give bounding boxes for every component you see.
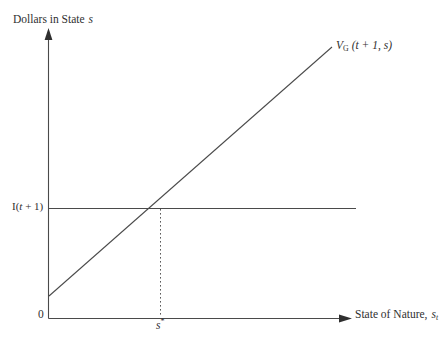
y-tick-part-3: + 1) xyxy=(22,200,43,212)
x-axis xyxy=(49,314,353,322)
x-axis-title-subscript: t xyxy=(436,313,438,322)
curve-label-subscript: G xyxy=(343,44,349,53)
value-function-line xyxy=(49,47,332,296)
x-axis-tick-label-sstar: s* xyxy=(156,318,165,331)
value-function-curve-label: VG(t + 1, s) xyxy=(336,40,392,53)
y-axis-tick-label-investment: I(t + 1) xyxy=(12,201,43,212)
y-axis-title: Dollars in States xyxy=(13,14,93,26)
origin-label: 0 xyxy=(38,309,44,321)
y-axis-title-main: Dollars in State xyxy=(13,13,85,25)
sstar-superscript: * xyxy=(160,317,164,326)
curve-label-args: (t + 1, s) xyxy=(352,39,392,51)
y-axis xyxy=(45,28,53,319)
economics-diagram: Dollars in States I(t + 1) 0 s* State of… xyxy=(0,0,446,343)
x-axis-title-main: State of Nature, xyxy=(355,308,428,320)
curve-label-symbol: V xyxy=(336,39,343,51)
x-axis-title: State of Nature,st xyxy=(355,309,438,322)
y-axis-title-italic: s xyxy=(89,13,93,25)
